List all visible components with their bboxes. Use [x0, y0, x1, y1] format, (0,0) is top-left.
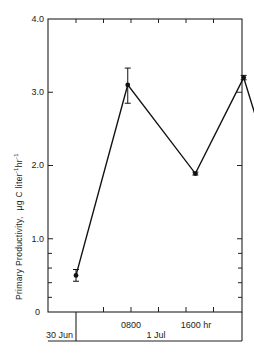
x-tick-label: 0800 [121, 320, 141, 330]
date-label-1-jul: 1 Jul [146, 330, 165, 340]
data-point [193, 171, 198, 176]
y-tick-label: 0 [35, 307, 40, 317]
series-line [76, 78, 254, 276]
y-tick-label: 4.0 [31, 14, 44, 24]
date-label-30-jun: 30 Jun [46, 330, 73, 340]
data-point [125, 83, 130, 88]
plot-frame [48, 19, 242, 312]
y-axis-title: Primary Productivity,µg C liter-1hr-1 [13, 153, 24, 300]
y-tick-label: 2.0 [31, 160, 44, 170]
data-point [241, 75, 246, 80]
productivity-chart: 4.0 3.0 2.0 1.0 0 Primary Productivity,µ… [0, 0, 254, 359]
x-tick-label: 1600 hr [181, 320, 212, 330]
data-point [74, 273, 79, 278]
y-tick-label: 3.0 [31, 87, 44, 97]
y-tick-label: 1.0 [31, 234, 44, 244]
data-series [73, 68, 254, 281]
axis-ticks [48, 19, 242, 312]
